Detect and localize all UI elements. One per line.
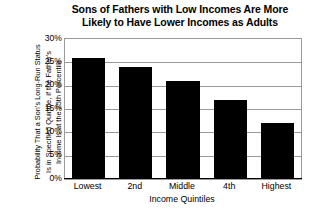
y-axis-label-container: Probability That a Son's Long-Run Status… (0, 0, 34, 215)
chart-title-line-1: Sons of Fathers with Low Incomes Are Mor… (56, 3, 304, 16)
y-axis-tick-label: 15% (36, 104, 62, 113)
chart-title-line-2: Likely to Have Lower Incomes as Adults (56, 16, 304, 29)
y-axis-tick-label: 25% (36, 57, 62, 66)
chart-title: Sons of Fathers with Low Incomes Are Mor… (56, 3, 304, 28)
y-axis-tick-label: 30% (36, 34, 62, 43)
y-axis-tick-label: 20% (36, 80, 62, 89)
bar (261, 123, 294, 179)
x-axis-tick-label: Lowest (64, 180, 111, 192)
bar (119, 67, 152, 179)
x-axis-tick-label: Middle (158, 180, 205, 192)
bar-chart: Sons of Fathers with Low Incomes Are Mor… (0, 0, 313, 215)
bar (166, 81, 199, 179)
x-axis-ticks: Lowest2ndMiddle4thHighest (64, 180, 300, 194)
x-axis-tick-label: 2nd (111, 180, 158, 192)
x-axis-line (64, 178, 302, 179)
y-axis-tick-label: 10% (36, 127, 62, 136)
x-axis-tick-label: 4th (206, 180, 253, 192)
bar (72, 58, 105, 179)
y-axis-ticks: 30%25%20%15%10%5%0% (31, 0, 62, 215)
y-axis-tick-label: 5% (36, 150, 62, 159)
bar (214, 100, 247, 179)
plot-area (64, 38, 302, 180)
x-axis-tick-label: Highest (253, 180, 300, 192)
x-axis-label: Income Quintiles (64, 194, 300, 205)
y-axis-tick-label: 0% (36, 174, 62, 183)
